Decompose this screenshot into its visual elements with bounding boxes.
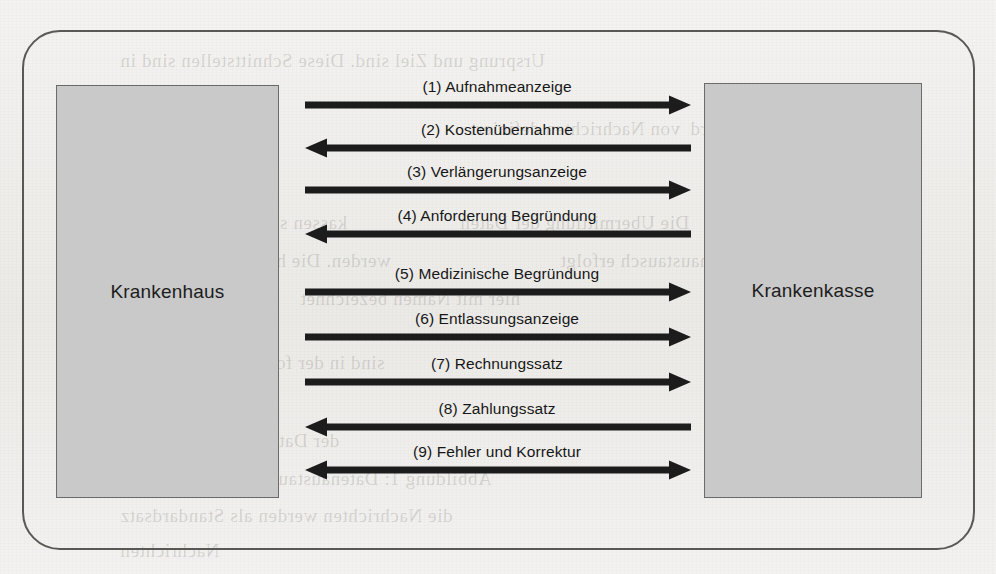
party-box-krankenkasse[interactable]: Krankenkasse xyxy=(704,83,922,498)
party-label-krankenkasse: Krankenkasse xyxy=(752,280,875,302)
diagram-page: Ursprung und Ziel sind. Diese Schnittste… xyxy=(0,0,996,574)
party-label-krankenhaus: Krankenhaus xyxy=(110,281,224,303)
party-box-krankenhaus[interactable]: Krankenhaus xyxy=(56,85,279,498)
